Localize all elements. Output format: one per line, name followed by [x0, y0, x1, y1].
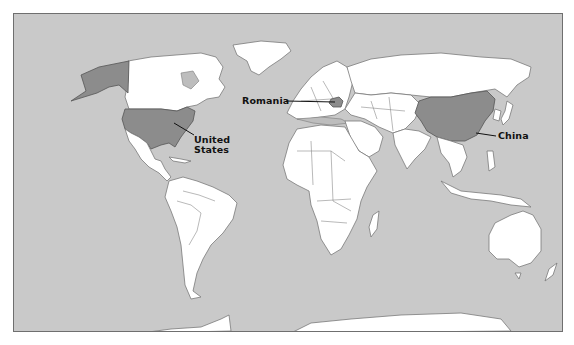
us-leader-line [174, 123, 194, 135]
romania-leader-line [286, 101, 335, 102]
world-map: United States Romania China [13, 13, 563, 332]
label-china: China [498, 131, 529, 141]
leader-lines [14, 14, 563, 332]
label-united-states: United States [194, 135, 230, 155]
china-leader-line [476, 133, 496, 136]
label-romania: Romania [242, 96, 289, 106]
